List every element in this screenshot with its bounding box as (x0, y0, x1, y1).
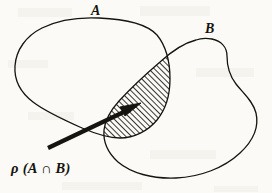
intersection-formula-label: ρ (A ∩ B) (11, 160, 71, 177)
venn-diagram-figure: A B ρ (A ∩ B) (0, 0, 272, 193)
set-b-label: B (205, 21, 214, 37)
set-a-label: A (91, 3, 100, 19)
